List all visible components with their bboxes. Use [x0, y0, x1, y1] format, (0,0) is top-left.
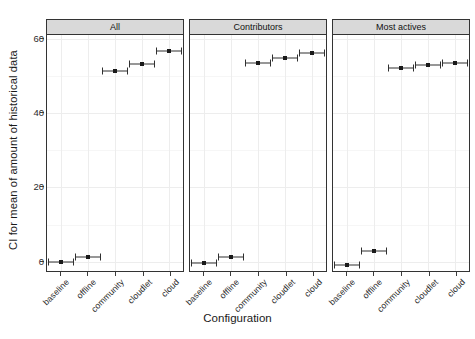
error-bar-cap-left	[388, 65, 389, 72]
y-tick-mark	[40, 38, 44, 39]
point-marker	[453, 61, 457, 65]
x-axis-ticks	[332, 272, 470, 276]
error-bar-cap-left	[442, 60, 443, 67]
error-bar-cap-right	[440, 62, 441, 69]
error-bar-cap-right	[359, 262, 360, 269]
x-tick-mark	[429, 272, 430, 276]
error-bar-cap-right	[243, 254, 244, 261]
x-axis-title: Configuration	[0, 312, 475, 324]
error-bar-cap-right	[297, 55, 298, 62]
error-bar-cap-left	[191, 260, 192, 267]
error-bar-cap-right	[73, 258, 74, 265]
facet-panel: Contributorsbaselineofflinecommunityclou…	[189, 19, 327, 272]
x-tick-label-cloud: cloud	[445, 277, 467, 299]
x-tick-label-offline: offline	[361, 277, 385, 301]
error-bar-cap-left	[156, 47, 157, 54]
x-tick-mark	[401, 272, 402, 276]
gridline-vertical-major	[169, 35, 170, 271]
error-bar-cap-left	[129, 61, 130, 68]
point-marker	[113, 69, 117, 73]
x-tick-mark	[286, 272, 287, 276]
x-axis-ticks	[46, 272, 184, 276]
x-tick-label-baseline: baseline	[184, 277, 214, 307]
x-tick-label-baseline: baseline	[41, 277, 71, 307]
data-point-baseline	[334, 259, 360, 271]
plot-area	[46, 34, 184, 272]
chart-figure: CI for mean of amount of historical data…	[0, 0, 475, 339]
error-bar-cap-right	[181, 47, 182, 54]
data-point-offline	[75, 251, 101, 263]
error-bar-cap-right	[386, 248, 387, 255]
x-tick-mark	[258, 272, 259, 276]
error-bar-cap-right	[127, 68, 128, 75]
data-point-community	[102, 65, 128, 77]
facet-strip-label: Most actives	[332, 19, 470, 34]
error-bar-cap-left	[245, 60, 246, 67]
point-marker	[345, 263, 349, 267]
x-tick-label-baseline: baseline	[327, 277, 357, 307]
y-tick-mark	[40, 261, 44, 262]
point-marker	[283, 56, 287, 60]
gridline-vertical-major	[285, 35, 286, 271]
x-tick-label-cloudlet: cloudlet	[268, 277, 297, 306]
data-point-baseline	[48, 256, 74, 268]
x-tick-mark	[313, 272, 314, 276]
facet-strip-label: All	[46, 19, 184, 34]
x-tick-mark	[60, 272, 61, 276]
error-bar-cap-left	[415, 62, 416, 69]
error-bar-cap-left	[299, 49, 300, 56]
error-bar-cap-left	[218, 254, 219, 261]
y-tick-mark	[40, 186, 44, 187]
point-marker	[140, 62, 144, 66]
data-point-cloud	[299, 47, 325, 59]
point-marker	[256, 61, 260, 65]
gridline-vertical-major	[61, 35, 62, 271]
point-marker	[399, 66, 403, 70]
facet-panel: Most activesbaselineofflinecommunityclou…	[332, 19, 470, 272]
x-tick-label-offline: offline	[218, 277, 242, 301]
x-tick-mark	[456, 272, 457, 276]
data-point-cloud	[442, 57, 468, 69]
error-bar-cap-right	[467, 60, 468, 67]
error-bar-cap-right	[270, 60, 271, 67]
x-tick-label-cloudlet: cloudlet	[411, 277, 440, 306]
x-tick-mark	[346, 272, 347, 276]
gridline-vertical-major	[88, 35, 89, 271]
x-tick-mark	[115, 272, 116, 276]
x-tick-mark	[230, 272, 231, 276]
gridline-vertical-major	[204, 35, 205, 271]
point-marker	[167, 49, 171, 53]
x-axis-ticks	[189, 272, 327, 276]
x-tick-mark	[87, 272, 88, 276]
facet-panel: Allbaselineofflinecommunitycloudletcloud	[46, 19, 184, 272]
error-bar-cap-right	[324, 49, 325, 56]
error-bar-cap-right	[154, 61, 155, 68]
gridline-vertical-major	[142, 35, 143, 271]
x-tick-mark	[203, 272, 204, 276]
x-tick-mark	[373, 272, 374, 276]
data-point-baseline	[191, 257, 217, 269]
point-marker	[202, 261, 206, 265]
data-point-cloudlet	[129, 58, 155, 70]
gridline-vertical-major	[258, 35, 259, 271]
x-tick-label-cloudlet: cloudlet	[125, 277, 154, 306]
data-point-cloudlet	[272, 52, 298, 64]
gridline-vertical-major	[455, 35, 456, 271]
y-axis-ticks: 0204060	[14, 0, 44, 339]
point-marker	[426, 63, 430, 67]
x-tick-label-offline: offline	[75, 277, 99, 301]
x-tick-label-cloud: cloud	[302, 277, 324, 299]
data-point-offline	[218, 251, 244, 263]
gridline-vertical-major	[312, 35, 313, 271]
error-bar-cap-left	[48, 258, 49, 265]
point-marker	[372, 249, 376, 253]
y-tick-mark	[40, 112, 44, 113]
x-tick-mark	[143, 272, 144, 276]
data-point-offline	[361, 245, 387, 257]
data-point-cloud	[156, 45, 182, 57]
error-bar-cap-left	[102, 68, 103, 75]
point-marker	[59, 260, 63, 264]
gridline-vertical-major	[231, 35, 232, 271]
error-bar-cap-right	[216, 260, 217, 267]
x-tick-mark	[170, 272, 171, 276]
